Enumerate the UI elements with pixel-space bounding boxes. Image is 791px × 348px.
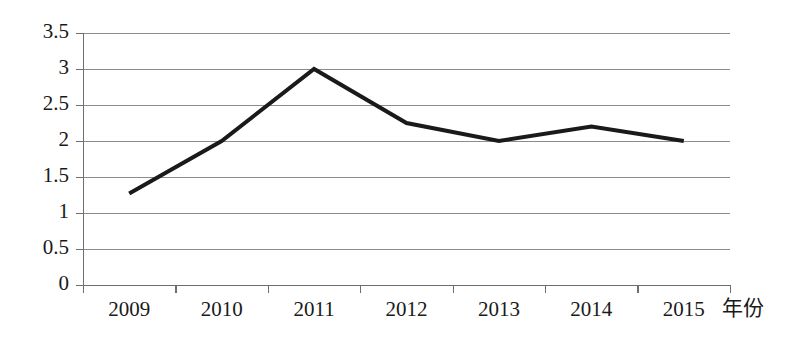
y-tick-label: 0 xyxy=(59,271,70,295)
x-tick-label: 2013 xyxy=(478,297,520,321)
y-tick-label: 0.5 xyxy=(43,235,69,259)
y-tick-label: 2 xyxy=(59,127,70,151)
x-tick-label: 2009 xyxy=(108,297,150,321)
y-tick-label: 2.5 xyxy=(43,91,69,115)
x-tick-label: 2010 xyxy=(201,297,243,321)
x-axis-title: 年份 xyxy=(722,296,764,320)
x-tick-label: 2014 xyxy=(570,297,613,321)
y-tick-label: 1.5 xyxy=(43,163,69,187)
line-chart-figure: 00.511.522.533.5 20092010201120122013201… xyxy=(0,0,791,348)
chart-background xyxy=(0,0,791,348)
x-tick-label: 2012 xyxy=(386,297,428,321)
y-tick-label: 3 xyxy=(59,55,70,79)
x-tick-label: 2011 xyxy=(293,297,334,321)
y-tick-label: 1 xyxy=(59,199,70,223)
x-tick-label: 2015 xyxy=(663,297,705,321)
chart-canvas: 00.511.522.533.5 20092010201120122013201… xyxy=(0,0,791,348)
y-tick-label: 3.5 xyxy=(43,19,69,43)
